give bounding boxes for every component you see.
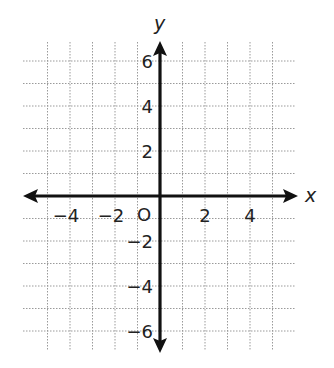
x-axis-label: x <box>304 184 317 206</box>
y-axis-label: y <box>153 12 166 34</box>
y-tick-label: −2 <box>126 231 153 252</box>
y-tick-label: 4 <box>142 96 153 117</box>
y-tick-label: 2 <box>142 141 153 162</box>
axes <box>23 41 298 353</box>
x-tick-label: −4 <box>53 205 80 226</box>
coordinate-plane: x y O −4−224 642−2−4−6 <box>0 0 334 368</box>
origin-label: O <box>137 204 151 225</box>
y-tick-label: 6 <box>142 51 153 72</box>
x-tick-label: 2 <box>199 205 210 226</box>
x-tick-label: −2 <box>98 205 125 226</box>
x-tick-labels: −4−224 <box>53 205 256 226</box>
x-tick-label: 4 <box>244 205 255 226</box>
y-tick-label: −6 <box>126 321 153 342</box>
y-tick-label: −4 <box>126 276 153 297</box>
